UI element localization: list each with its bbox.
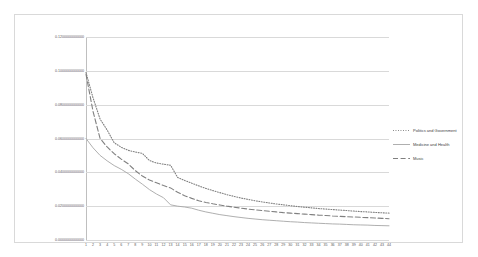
x-tick-label: 44	[387, 243, 391, 248]
legend-swatch-icon	[393, 128, 410, 133]
legend-item[interactable]: Medicine and Health	[393, 139, 477, 150]
x-tick-label: 29	[281, 243, 285, 248]
x-tick-label: 34	[317, 243, 321, 248]
x-tick-label: 24	[246, 243, 250, 248]
x-tick-label: 5	[113, 243, 115, 248]
x-tick-label: 41	[366, 243, 370, 248]
x-tick-label: 8	[134, 243, 136, 248]
x-tick-label: 26	[260, 243, 264, 248]
y-axis-labels: 0.00000000000000.02000000000000.04000000…	[29, 37, 86, 240]
y-tick-label: 0.1200000000000	[55, 35, 84, 39]
x-tick-label: 22	[232, 243, 236, 248]
chart-legend: Politics and GovernmentMedicine and Heal…	[393, 125, 477, 167]
x-tick-label: 15	[183, 243, 187, 248]
plot-area	[86, 37, 389, 240]
legend-swatch-icon	[393, 156, 410, 161]
y-tick-label: 0.0000000000000	[55, 238, 84, 242]
legend-label: Medicine and Health	[413, 142, 449, 147]
legend-item[interactable]: Politics and Government	[393, 125, 477, 136]
x-tick-label: 1	[85, 243, 87, 248]
x-tick-label: 32	[302, 243, 306, 248]
x-tick-label: 27	[267, 243, 271, 248]
x-tick-label: 12	[162, 243, 166, 248]
series-line	[86, 73, 389, 214]
x-tick-label: 10	[147, 243, 151, 248]
y-tick-label: 0.0400000000000	[55, 170, 84, 174]
x-tick-label: 38	[345, 243, 349, 248]
x-tick-label: 9	[141, 243, 143, 248]
x-tick-label: 37	[338, 243, 342, 248]
x-tick-label: 28	[274, 243, 278, 248]
x-tick-label: 2	[92, 243, 94, 248]
y-tick-label: 0.0600000000000	[55, 137, 84, 141]
x-tick-label: 42	[373, 243, 377, 248]
x-tick-label: 3	[99, 243, 101, 248]
x-tick-label: 36	[331, 243, 335, 248]
y-tick-label: 0.0800000000000	[55, 103, 84, 107]
x-tick-label: 4	[106, 243, 108, 248]
chart-container: 0.00000000000000.02000000000000.04000000…	[0, 0, 478, 257]
x-tick-label: 30	[288, 243, 292, 248]
x-tick-label: 6	[120, 243, 122, 248]
x-tick-label: 39	[352, 243, 356, 248]
x-tick-label: 16	[190, 243, 194, 248]
x-tick-label: 7	[127, 243, 129, 248]
legend-item[interactable]: Music	[393, 153, 477, 164]
x-tick-label: 11	[155, 243, 159, 248]
legend-swatch-icon	[393, 142, 410, 147]
gridline	[86, 240, 389, 241]
x-tick-label: 20	[218, 243, 222, 248]
x-tick-label: 21	[225, 243, 229, 248]
legend-label: Politics and Government	[413, 128, 457, 133]
y-tick-label: 0.0200000000000	[55, 204, 84, 208]
x-tick-label: 40	[359, 243, 363, 248]
series-lines	[86, 37, 389, 240]
x-tick-label: 17	[197, 243, 201, 248]
x-tick-label: 33	[309, 243, 313, 248]
x-tick-label: 35	[324, 243, 328, 248]
x-tick-label: 14	[176, 243, 180, 248]
x-axis-labels: 1234567891011121314151617181920212223242…	[86, 243, 389, 253]
x-tick-label: 31	[295, 243, 299, 248]
x-tick-label: 18	[204, 243, 208, 248]
chart-frame: 0.00000000000000.02000000000000.04000000…	[14, 14, 463, 243]
y-tick-label: 0.1000000000000	[55, 69, 84, 73]
x-tick-label: 23	[239, 243, 243, 248]
x-tick-label: 19	[211, 243, 215, 248]
legend-label: Music	[413, 156, 423, 161]
x-tick-label: 25	[253, 243, 257, 248]
x-tick-label: 43	[380, 243, 384, 248]
x-tick-label: 13	[169, 243, 173, 248]
